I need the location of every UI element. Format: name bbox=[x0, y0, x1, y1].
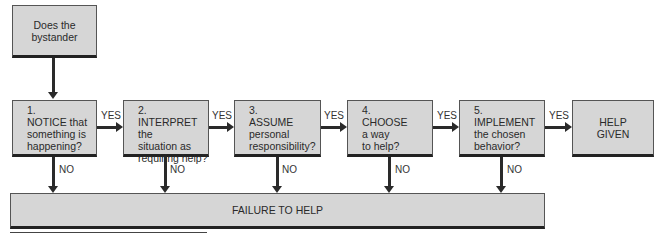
start-connector bbox=[52, 58, 55, 93]
yes-connector-4 bbox=[433, 126, 452, 129]
step-line: INTERPRET the bbox=[138, 116, 208, 140]
step-4-choose: 4. CHOOSE a way to help? bbox=[347, 100, 433, 157]
start-box: Does the bystander bbox=[12, 5, 97, 58]
step-2-interpret: 2. INTERPRET the situation as requiring … bbox=[123, 100, 209, 157]
arrow-down-icon bbox=[496, 186, 506, 193]
arrow-down-icon bbox=[48, 186, 58, 193]
step-5-implement: 5. IMPLEMENT the chosen behavior? bbox=[459, 100, 545, 157]
step-line: something is bbox=[27, 128, 96, 140]
step-line: a way bbox=[362, 128, 432, 140]
step-number: 3. bbox=[249, 104, 320, 116]
arrow-right-icon bbox=[227, 122, 234, 132]
yes-label-4: YES bbox=[437, 110, 457, 121]
start-line-1: Does the bbox=[31, 19, 77, 31]
arrow-right-icon bbox=[452, 122, 459, 132]
step-line: NOTICE that bbox=[27, 116, 96, 128]
step-3-assume: 3. ASSUME personal responsibility? bbox=[234, 100, 321, 157]
arrow-down-icon bbox=[272, 186, 282, 193]
step-line: behavior? bbox=[474, 140, 544, 152]
failure-label: FAILURE TO HELP bbox=[232, 204, 323, 216]
step-number: 1. bbox=[27, 104, 96, 116]
end-line-1: HELP bbox=[597, 116, 630, 128]
yes-label-1: YES bbox=[101, 110, 121, 121]
step-line: personal bbox=[249, 128, 320, 140]
start-line-2: bystander bbox=[31, 31, 77, 43]
yes-connector-5 bbox=[545, 126, 565, 129]
step-line: happening? bbox=[27, 140, 96, 152]
yes-label-3: YES bbox=[324, 110, 344, 121]
step-line: situation as bbox=[138, 140, 208, 152]
no-label-4: NO bbox=[395, 164, 410, 175]
step-number: 4. bbox=[362, 104, 432, 116]
step-line: to help? bbox=[362, 140, 432, 152]
step-line: ASSUME bbox=[249, 116, 320, 128]
no-label-5: NO bbox=[507, 164, 522, 175]
step-line: CHOOSE bbox=[362, 116, 432, 128]
no-label-2: NO bbox=[170, 164, 185, 175]
step-line: requiring help? bbox=[138, 152, 208, 164]
yes-connector-2 bbox=[209, 126, 227, 129]
end-line-2: GIVEN bbox=[597, 128, 630, 140]
arrow-right-icon bbox=[116, 122, 123, 132]
no-connector-5 bbox=[500, 157, 503, 187]
yes-label-2: YES bbox=[212, 110, 232, 121]
no-label-3: NO bbox=[282, 164, 297, 175]
no-connector-3 bbox=[276, 157, 279, 187]
arrow-down-icon bbox=[160, 186, 170, 193]
help-given-box: HELP GIVEN bbox=[572, 100, 654, 157]
step-line: responsibility? bbox=[249, 140, 320, 152]
arrow-down-icon bbox=[384, 186, 394, 193]
step-number: 5. bbox=[474, 104, 544, 116]
arrow-down-icon bbox=[48, 92, 58, 99]
yes-label-5: YES bbox=[549, 110, 569, 121]
yes-connector-3 bbox=[321, 126, 340, 129]
arrow-right-icon bbox=[340, 122, 347, 132]
no-connector-1 bbox=[52, 157, 55, 187]
no-connector-4 bbox=[388, 157, 391, 187]
step-line: the chosen bbox=[474, 128, 544, 140]
arrow-right-icon bbox=[565, 122, 572, 132]
no-connector-2 bbox=[164, 157, 167, 187]
no-label-1: NO bbox=[59, 164, 74, 175]
failure-to-help-box: FAILURE TO HELP bbox=[10, 193, 545, 229]
step-1-notice: 1. NOTICE that something is happening? bbox=[12, 100, 97, 157]
step-number: 2. bbox=[138, 104, 208, 116]
step-line: IMPLEMENT bbox=[474, 116, 544, 128]
footer-rule bbox=[10, 232, 207, 233]
yes-connector-1 bbox=[97, 126, 116, 129]
